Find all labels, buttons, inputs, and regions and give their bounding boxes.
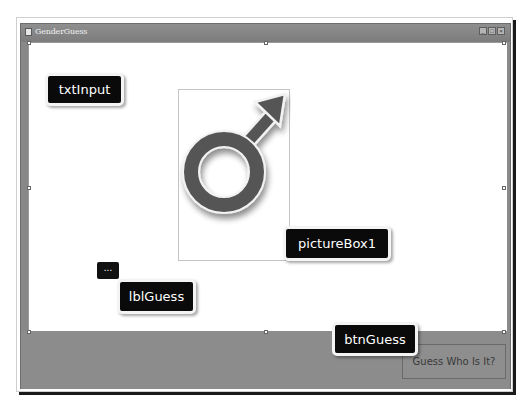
resize-handle-top-right[interactable] [502,41,506,45]
resize-handle-bottom-right[interactable] [502,330,506,334]
app-icon [25,28,32,36]
male-symbol-icon [179,90,291,262]
resize-handle-left[interactable] [27,186,31,190]
picture-box[interactable] [178,89,290,261]
minimize-button[interactable]: _ [479,27,487,35]
lbl-guess-control[interactable]: ... [97,262,119,279]
callout-txtinput: txtInput [45,73,124,106]
window-controls: _ □ × [479,27,505,35]
callout-lblguess: lblGuess [117,279,196,314]
window-shadow-right [513,20,516,395]
window-title: GenderGuess [35,27,87,36]
close-button[interactable]: × [497,27,505,35]
callout-btnguess: btnGuess [332,322,418,356]
resize-handle-bottom-left[interactable] [27,330,31,334]
resize-handle-bottom[interactable] [264,330,268,334]
resize-handle-top[interactable] [264,41,268,45]
title-bar[interactable]: GenderGuess _ □ × [21,24,510,42]
resize-handle-right[interactable] [502,186,506,190]
resize-handle-top-left[interactable] [27,41,31,45]
window-shadow-bottom [19,392,516,395]
maximize-button[interactable]: □ [488,27,496,35]
callout-picturebox: pictureBox1 [283,226,391,261]
